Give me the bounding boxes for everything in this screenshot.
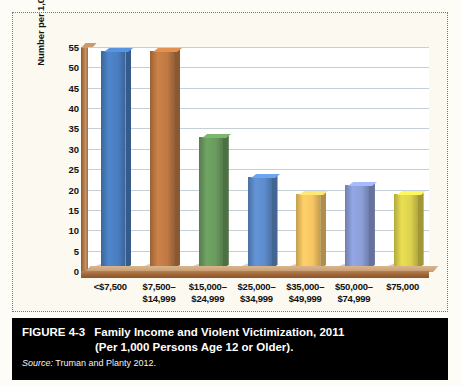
bar-front-face <box>248 177 272 271</box>
axis-floor <box>81 271 429 278</box>
figure-number: FIGURE 4-3 <box>22 325 85 340</box>
x-axis-tick-line: $14,999 <box>131 293 187 305</box>
bar[interactable] <box>199 137 223 271</box>
bar-chart: Number per 1,000 Persons 051015202530354… <box>39 25 437 307</box>
x-axis-tick-line: $15,000– <box>180 281 236 293</box>
y-axis-tick: 25 <box>68 164 79 175</box>
bars-layer <box>88 47 429 271</box>
bar-group <box>192 47 236 271</box>
x-axis-tick: $75,000 <box>375 281 431 293</box>
x-axis-tick-line: $25,000– <box>229 281 285 293</box>
bar-side-face <box>125 48 131 268</box>
bar-group <box>338 47 382 271</box>
bar-side-face <box>272 174 278 268</box>
y-axis-tick: 15 <box>68 204 79 215</box>
bar-group <box>143 47 187 271</box>
y-axis-tick: 40 <box>68 103 79 114</box>
source-label: Source: <box>22 358 53 368</box>
y-axis-tick: 35 <box>68 123 79 134</box>
bar-side-face <box>223 134 229 268</box>
bar-front-face <box>150 51 174 271</box>
x-axis-tick-labels: <$7,500$7,500–$14,999$15,000–$24,999$25,… <box>88 281 429 315</box>
figure-caption: FIGURE 4-3Family Income and Violent Vict… <box>12 318 448 380</box>
bar-front-face <box>296 194 320 271</box>
x-axis-tick-line: $34,999 <box>229 293 285 305</box>
y-axis-tick: 5 <box>74 245 79 256</box>
plot-area <box>88 47 429 271</box>
x-axis-tick: $25,000–$34,999 <box>229 281 285 305</box>
bar-side-face <box>418 191 424 268</box>
bar-front-face <box>199 137 223 271</box>
caption-source: Source: Truman and Planty 2012. <box>22 357 438 370</box>
y-axis-tick: 20 <box>68 184 79 195</box>
bar-top-face <box>251 174 280 178</box>
bar-side-face <box>369 182 375 268</box>
x-axis-tick-line: $50,000– <box>326 281 382 293</box>
y-axis-tick: 50 <box>68 62 79 73</box>
bar-side-face <box>320 191 326 268</box>
source-text: Truman and Planty 2012. <box>53 358 156 368</box>
bar-group <box>387 47 431 271</box>
bar-top-face <box>299 191 328 195</box>
x-axis-tick: $15,000–$24,999 <box>180 281 236 305</box>
caption-title-line-2: (Per 1,000 Persons Age 12 or Older). <box>22 340 438 355</box>
y-axis-tick: 55 <box>68 42 79 53</box>
y-axis-title: Number per 1,000 Persons <box>35 0 46 77</box>
bar-front-face <box>101 51 125 271</box>
bar[interactable] <box>248 177 272 271</box>
x-axis-tick-line: $74,999 <box>326 293 382 305</box>
x-axis-tick: $50,000–$74,999 <box>326 281 382 305</box>
caption-title-line-1: FIGURE 4-3Family Income and Violent Vict… <box>22 325 438 340</box>
bar[interactable] <box>101 51 125 271</box>
bar[interactable] <box>394 194 418 271</box>
y-axis-tick: 0 <box>74 266 79 277</box>
y-axis-tick: 45 <box>68 82 79 93</box>
x-axis-tick-line: $35,000– <box>277 281 333 293</box>
x-axis-tick-line: $7,500– <box>131 281 187 293</box>
bar-top-face <box>202 134 231 138</box>
axis-wall-left <box>81 47 88 271</box>
caption-title-text: Family Income and Violent Victimization,… <box>94 326 344 338</box>
bar-side-face <box>174 48 180 268</box>
bar[interactable] <box>296 194 320 271</box>
bar-top-face <box>397 191 426 195</box>
y-axis-tick-labels: 0510152025303540455055 <box>53 25 79 281</box>
bar[interactable] <box>345 185 369 271</box>
x-axis-tick: $35,000–$49,999 <box>277 281 333 305</box>
x-axis-tick: <$7,500 <box>82 281 138 293</box>
y-axis-tick: 10 <box>68 225 79 236</box>
bar-group <box>289 47 333 271</box>
bar[interactable] <box>150 51 174 271</box>
x-axis-tick-line: $49,999 <box>277 293 333 305</box>
x-axis-tick-line: <$7,500 <box>82 281 138 293</box>
y-axis-tick: 30 <box>68 143 79 154</box>
x-axis-tick-line: $75,000 <box>375 281 431 293</box>
bar-front-face <box>345 185 369 271</box>
bar-front-face <box>394 194 418 271</box>
figure-container: Number per 1,000 Persons 051015202530354… <box>0 0 462 386</box>
figure-frame: Number per 1,000 Persons 051015202530354… <box>12 12 448 312</box>
bar-group <box>94 47 138 271</box>
x-axis-tick: $7,500–$14,999 <box>131 281 187 305</box>
bar-group <box>241 47 285 271</box>
x-axis-tick-line: $24,999 <box>180 293 236 305</box>
